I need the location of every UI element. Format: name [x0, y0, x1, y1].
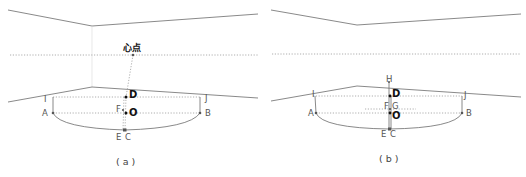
label-e-b: E: [381, 129, 386, 139]
arc-a-c-b-a: [53, 113, 200, 130]
label-f-b: F: [384, 101, 389, 111]
label-f-a: F: [116, 104, 121, 114]
point-d-b: [389, 95, 392, 98]
label-b-b: B: [466, 108, 472, 118]
point-o-b: [389, 112, 392, 115]
panel-b: H D F G O I J A B E C ( b ): [271, 10, 521, 164]
point-b-a: [199, 112, 202, 115]
label-c-b: C: [390, 129, 396, 139]
point-a-b: [315, 112, 318, 115]
point-g-b: [389, 108, 391, 110]
point-a-a: [52, 112, 55, 115]
label-b-a: B: [205, 108, 211, 118]
diagram-canvas: 心点 D O F I J A B E C ( a ): [0, 0, 526, 177]
label-c-a: C: [125, 132, 131, 142]
label-a-b: A: [308, 108, 314, 118]
label-i-b: I: [312, 89, 315, 99]
label-i-a: I: [44, 94, 47, 104]
ceiling-edge-b: [271, 10, 521, 25]
point-b-b: [461, 112, 464, 115]
label-d-a: D: [129, 89, 137, 100]
point-o-a: [125, 112, 128, 115]
label-j-b: J: [463, 90, 467, 100]
panel-a: 心点 D O F I J A B E C ( a ): [8, 10, 258, 167]
label-d-b: D: [392, 88, 400, 99]
label-h-b: H: [386, 74, 392, 84]
point-d-a: [125, 96, 128, 99]
label-o-a: O: [129, 107, 138, 118]
point-f-a: [122, 109, 124, 111]
label-o-b: O: [392, 110, 401, 121]
caption-a: ( a ): [116, 156, 135, 167]
label-e-a: E: [116, 132, 121, 142]
label-heart-point-a: 心点: [123, 42, 141, 53]
vertical-d-to-c-a2: [123, 97, 124, 130]
label-j-a: J: [204, 93, 208, 103]
line-i-a-b: [315, 96, 316, 113]
point-heart-a: [132, 54, 135, 57]
caption-b: ( b ): [379, 153, 398, 164]
ceiling-edge-a: [8, 10, 258, 26]
label-a-a: A: [42, 108, 48, 118]
